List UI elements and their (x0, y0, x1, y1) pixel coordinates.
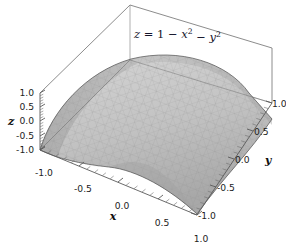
plot-canvas: 1.0 0.5 0.0 -0.5 -1.0 z -1.0 -0.5 0.0 0.… (0, 0, 286, 245)
y-tick-label: -1.0 (198, 210, 216, 221)
y-tick-label: 0.5 (254, 126, 269, 137)
z-tick-label: -0.5 (16, 130, 34, 141)
surface-plot-figure: 1.0 0.5 0.0 -0.5 -1.0 z -1.0 -0.5 0.0 0.… (0, 0, 286, 245)
y-tick-label: 1.0 (272, 98, 286, 109)
y-tick-label: 0.0 (235, 154, 250, 165)
z-tick-label: 0.5 (19, 101, 34, 112)
x-tick-label: 0.0 (115, 200, 130, 211)
z-tick-label: 1.0 (19, 87, 34, 98)
z-tick-label: -1.0 (16, 144, 34, 155)
x-axis-label: x (109, 210, 117, 223)
title-equals: = (140, 27, 157, 41)
y-axis-label: y (264, 154, 273, 167)
z-tick-label: 0.0 (19, 115, 34, 126)
svg-text:z = 1 − x2 − y2: z = 1 − x2 − y2 (133, 27, 221, 45)
title-minus-1: − (164, 27, 181, 41)
title-y-exponent: 2 (216, 30, 221, 39)
title-minus-2: − (193, 30, 210, 44)
plot-title-equation: z = 1 − x2 − y2 (133, 27, 221, 45)
x-tick-label: -1.0 (35, 167, 53, 178)
x-tick-label: -0.5 (74, 183, 92, 194)
title-one: 1 (157, 27, 164, 41)
z-axis-tick-labels: 1.0 0.5 0.0 -0.5 -1.0 (16, 87, 34, 155)
x-tick-label: 1.0 (194, 233, 209, 244)
z-axis-label: z (7, 115, 15, 128)
y-tick-label: -0.5 (217, 182, 235, 193)
x-tick-label: 0.5 (155, 217, 170, 228)
